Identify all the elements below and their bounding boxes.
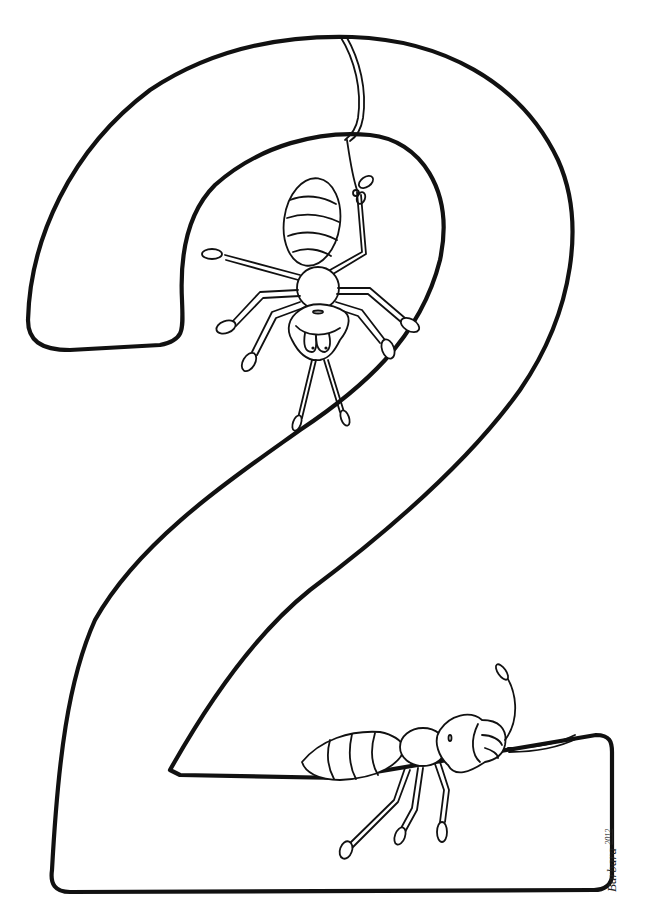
resting-ant bbox=[302, 662, 578, 860]
artist-signature: Barbara 2012 bbox=[596, 800, 636, 895]
hanging-ant bbox=[202, 175, 422, 432]
coloring-page-canvas bbox=[0, 0, 660, 923]
string-loop bbox=[340, 36, 375, 205]
signature-year: 2012 bbox=[604, 829, 613, 845]
signature-name: Barbara bbox=[604, 848, 619, 892]
